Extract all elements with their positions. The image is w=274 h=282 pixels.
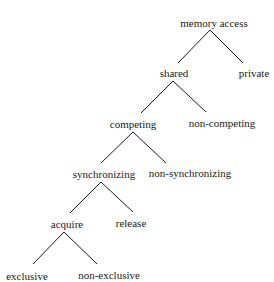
node-non-synchronizing: non-synchronizing: [149, 167, 231, 179]
edge-competing-to-non-synchronizing: [133, 132, 166, 163]
edge-synchronizing-to-acquire: [70, 182, 101, 213]
edge-memory-access-to-shared: [178, 30, 210, 63]
edge-competing-to-synchronizing: [101, 132, 133, 163]
node-exclusive: exclusive: [6, 270, 48, 282]
edge-shared-to-competing: [141, 81, 173, 113]
node-non-exclusive: non-exclusive: [78, 269, 140, 281]
node-acquire: acquire: [51, 218, 83, 230]
node-shared: shared: [160, 67, 189, 79]
edge-shared-to-non-competing: [173, 81, 206, 112]
edge-acquire-to-exclusive: [33, 232, 64, 264]
edge-synchronizing-to-release: [101, 182, 133, 212]
node-memory-access: memory access: [180, 17, 248, 29]
node-competing: competing: [110, 118, 156, 130]
node-non-competing: non-competing: [189, 117, 256, 129]
node-synchronizing: synchronizing: [73, 168, 135, 180]
edge-acquire-to-non-exclusive: [64, 232, 97, 264]
node-release: release: [116, 217, 147, 229]
edge-memory-access-to-private: [210, 30, 243, 63]
node-private: private: [239, 67, 270, 79]
